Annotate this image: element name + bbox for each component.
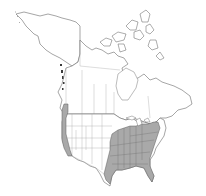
north-america-map <box>0 0 206 196</box>
alaska <box>16 12 80 66</box>
range-map <box>0 0 206 196</box>
arctic-islands <box>100 10 164 60</box>
